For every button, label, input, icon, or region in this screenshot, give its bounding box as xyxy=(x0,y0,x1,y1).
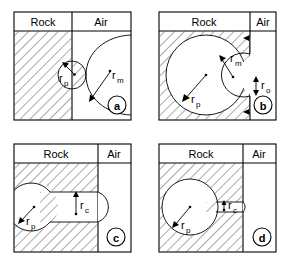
panel-a-rock-label: Rock xyxy=(30,16,56,28)
panel-c-air-label: Air xyxy=(107,148,121,160)
panel-c-meniscus-arc xyxy=(98,192,108,222)
figure-container: Rock Air r p r m a xyxy=(0,0,292,267)
panel-c-rock-label: Rock xyxy=(43,148,69,160)
panel-c-rock-region xyxy=(7,163,108,252)
panel-b: Rock Air r p r m r o b xyxy=(146,0,292,134)
panel-a-meniscus-center-dot xyxy=(109,70,112,73)
panel-b-air-label: Air xyxy=(256,16,270,28)
panel-c-pore-center-dot xyxy=(33,206,36,209)
panel-a-rm-subscript: m xyxy=(117,76,124,85)
panel-d-rc-subscript: c xyxy=(233,206,237,215)
panel-b-rm-symbol: r xyxy=(230,52,234,64)
panel-a-rm-symbol: r xyxy=(112,69,116,81)
panel-d: Rock Air r p r c d xyxy=(146,133,292,267)
panel-b-tag-label: b xyxy=(260,100,267,112)
panel-a-drawing: Rock Air r p r m a xyxy=(0,0,146,134)
panel-c-drawing: Rock Air r p r c c xyxy=(0,133,146,267)
panel-b-rock-label: Rock xyxy=(191,16,217,28)
panel-d-meniscus-arc xyxy=(243,202,245,212)
panel-a-rp-subscript: p xyxy=(64,79,69,88)
panel-c-tag-label: c xyxy=(113,232,119,244)
panel-b-rp-symbol: r xyxy=(191,93,195,105)
panel-a-pore-center-dot xyxy=(73,73,76,76)
panel-b-rock-hatch xyxy=(159,31,250,120)
panel-b-ro-symbol: r xyxy=(261,79,265,91)
panel-b-rp-subscript: p xyxy=(196,100,201,109)
panel-b-meniscus-center-dot xyxy=(232,76,235,79)
panel-c-rp-symbol: r xyxy=(26,215,30,227)
panel-d-rp-symbol: r xyxy=(181,219,185,231)
panel-b-ro-subscript: o xyxy=(266,86,271,95)
panel-d-tag-label: d xyxy=(259,232,266,244)
panel-a-air-label: Air xyxy=(94,16,108,28)
panel-c-rc-subscript: c xyxy=(85,206,89,215)
panel-b-pore-center-dot xyxy=(205,74,208,77)
panel-d-air-label: Air xyxy=(252,148,266,160)
panel-b-rock-region xyxy=(159,31,266,120)
panel-c-rp-subscript: p xyxy=(31,222,36,231)
panel-a-rm-leader xyxy=(91,72,110,99)
panel-d-rock-label: Rock xyxy=(188,148,214,160)
panel-d-rp-subscript: p xyxy=(186,226,191,235)
panel-b-rm-subscript: m xyxy=(235,59,242,68)
panel-b-drawing: Rock Air r p r m r o b xyxy=(146,0,292,134)
panel-c-rc-symbol: r xyxy=(80,199,84,211)
panel-c: Rock Air r p r c c xyxy=(0,133,146,267)
panel-d-pore-center-dot xyxy=(189,206,192,209)
panel-b-rp-leader xyxy=(185,75,206,99)
panel-a-rp-symbol: r xyxy=(59,72,63,84)
panel-d-drawing: Rock Air r p r c d xyxy=(146,133,292,267)
panel-c-rc-base-dot xyxy=(75,213,78,216)
panel-a: Rock Air r p r m a xyxy=(0,0,146,134)
panel-a-rp-arrowhead xyxy=(62,62,69,68)
panel-d-rc-base-dot xyxy=(223,209,226,212)
panel-d-rc-symbol: r xyxy=(228,199,232,211)
panel-a-tag-label: a xyxy=(114,100,121,112)
